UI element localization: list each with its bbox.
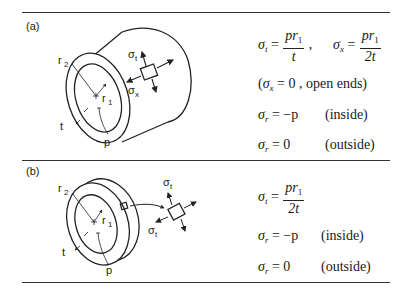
equation-radial-inside-a-note: (inside) xyxy=(325,107,368,123)
svg-text:σ: σ xyxy=(163,176,170,188)
equation-open-ends-a: (σx = 0 , open ends) xyxy=(258,76,367,93)
svg-text:r: r xyxy=(102,92,106,104)
svg-text:r: r xyxy=(58,54,62,66)
equation-radial-inside-b-note: (inside) xyxy=(321,228,364,244)
equation-radial-outside-b-note: (outside) xyxy=(321,259,371,275)
svg-text:t: t xyxy=(62,246,65,258)
svg-text:r: r xyxy=(58,182,62,194)
equation-axial-stress-a: σx = pr12t xyxy=(333,28,382,64)
svg-text:2: 2 xyxy=(64,188,69,197)
svg-text:t: t xyxy=(155,230,158,239)
equation-hoop-stress-a: σt = pr1t , xyxy=(258,28,312,64)
equation-radial-outside-a-note: (outside) xyxy=(325,137,375,153)
svg-text:2: 2 xyxy=(64,60,69,69)
svg-text:p: p xyxy=(106,264,112,276)
equation-radial-inside-b: σr = −p xyxy=(258,228,298,245)
svg-text:σ: σ xyxy=(148,224,155,236)
svg-text:t: t xyxy=(135,54,138,63)
svg-text:r: r xyxy=(102,214,106,226)
svg-text:σ: σ xyxy=(128,84,135,96)
svg-text:p: p xyxy=(104,136,110,148)
equation-radial-inside-a: σr = −p xyxy=(258,107,298,124)
cylinder-figure xyxy=(55,28,191,151)
svg-text:1: 1 xyxy=(108,98,113,107)
svg-text:x: x xyxy=(135,90,139,99)
svg-text:t: t xyxy=(60,120,63,132)
svg-text:1: 1 xyxy=(108,220,113,229)
svg-text:σ: σ xyxy=(128,48,135,60)
ring-stress-arrows xyxy=(130,193,196,231)
equation-radial-outside-b: σr = 0 xyxy=(258,259,290,276)
equation-hoop-stress-b: σt = pr12t xyxy=(258,180,305,216)
equation-radial-outside-a: σr = 0 xyxy=(258,137,290,154)
svg-text:t: t xyxy=(170,182,173,191)
